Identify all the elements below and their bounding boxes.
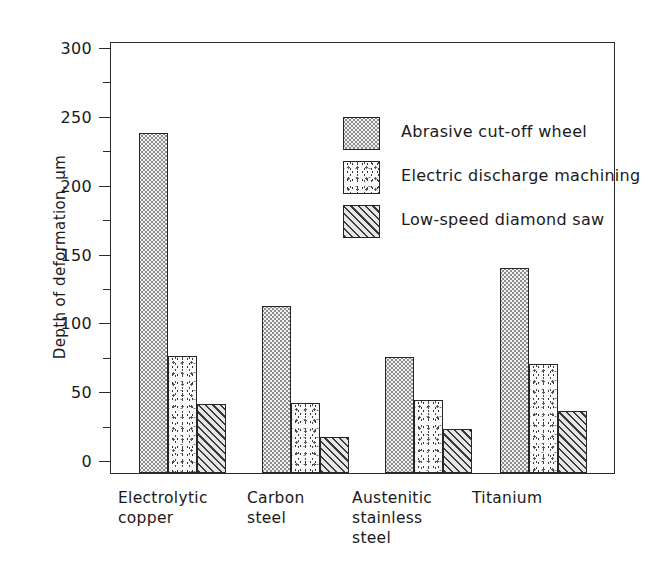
- bar: [443, 429, 472, 473]
- bar: [529, 364, 558, 473]
- bar: [320, 437, 349, 473]
- y-tick-label-text: 200: [40, 177, 92, 196]
- y-tick-label: 200: [30, 177, 92, 195]
- legend-swatch-low-speed-diamond-saw: [343, 205, 380, 238]
- bar: [168, 356, 197, 473]
- y-tick-major: [99, 461, 110, 462]
- x-axis-label-3: Austenitic stainless steel: [352, 488, 432, 548]
- y-tick-label-text: 300: [40, 39, 92, 58]
- y-tick-minor: [103, 427, 110, 428]
- y-tick-label-text: 150: [40, 246, 92, 265]
- y-tick-label: 150: [30, 246, 92, 264]
- y-tick-minor: [103, 151, 110, 152]
- y-tick-label: 100: [30, 314, 92, 332]
- x-axis-label-4: Titanium: [472, 488, 542, 508]
- chart-legend: Abrasive cut-off wheel Electric discharg…: [343, 115, 657, 247]
- bar: [558, 411, 587, 473]
- y-tick-major: [99, 186, 110, 187]
- y-tick-major: [99, 117, 110, 118]
- bar: [385, 357, 414, 473]
- legend-label-electric-discharge-machining: Electric discharge machining: [401, 166, 641, 185]
- y-tick-minor: [103, 289, 110, 290]
- y-tick-major: [99, 392, 110, 393]
- x-axis-label-2: Carbon steel: [247, 488, 305, 528]
- bar: [139, 133, 168, 473]
- bar: [500, 268, 529, 473]
- y-tick-major: [99, 255, 110, 256]
- y-tick-minor: [103, 358, 110, 359]
- y-tick-label: 300: [30, 39, 92, 57]
- bar: [197, 404, 226, 473]
- legend-item: Abrasive cut-off wheel: [343, 115, 657, 159]
- legend-item: Low-speed diamond saw: [343, 203, 657, 247]
- y-tick-label: 50: [30, 383, 92, 401]
- y-tick-label-text: 250: [40, 108, 92, 127]
- y-tick-minor: [103, 220, 110, 221]
- bar: [262, 306, 291, 473]
- legend-item: Electric discharge machining: [343, 159, 657, 203]
- y-tick-major: [99, 323, 110, 324]
- y-tick-label: 250: [30, 108, 92, 126]
- y-tick-label: 0: [30, 452, 92, 470]
- bar: [291, 403, 320, 473]
- y-tick-minor: [103, 82, 110, 83]
- bar-chart-figure: Depth of deformation, µm 050100150200250…: [0, 0, 657, 567]
- y-tick-label-text: 100: [40, 314, 92, 333]
- y-tick-label-text: 0: [40, 452, 92, 471]
- legend-label-abrasive-cut-off-wheel: Abrasive cut-off wheel: [401, 122, 587, 141]
- legend-label-low-speed-diamond-saw: Low-speed diamond saw: [401, 210, 604, 229]
- bar: [414, 400, 443, 473]
- x-axis-label-1: Electrolytic copper: [118, 488, 208, 528]
- legend-swatch-abrasive-cut-off-wheel: [343, 117, 380, 150]
- legend-swatch-electric-discharge-machining: [343, 161, 380, 194]
- y-tick-label-text: 50: [40, 383, 92, 402]
- y-tick-major: [99, 48, 110, 49]
- plot-area: Abrasive cut-off wheel Electric discharg…: [110, 42, 615, 474]
